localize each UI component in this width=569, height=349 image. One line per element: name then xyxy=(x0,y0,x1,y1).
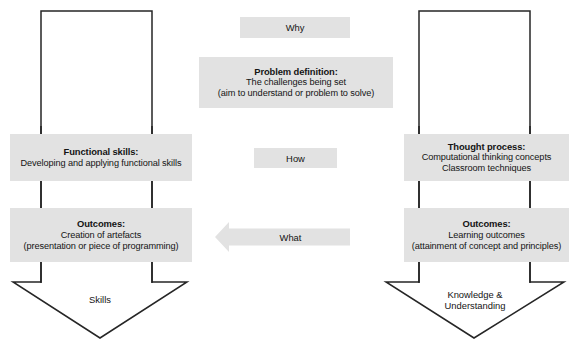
functional-skills-title: Functional skills: xyxy=(64,146,139,157)
thought-process-line-1: Computational thinking concepts xyxy=(422,152,552,163)
left-outcomes-line-2: (presentation or piece of programming) xyxy=(23,241,178,252)
left-outcomes-title: Outcomes: xyxy=(77,218,125,229)
why-label-box: Why xyxy=(240,17,350,38)
why-label-text: Why xyxy=(286,22,305,33)
what-label-text: What xyxy=(264,232,302,243)
problem-definition-line-2: (aim to understand or problem to solve) xyxy=(218,88,374,99)
thought-process-line-2: Classroom techniques xyxy=(442,163,531,174)
left-outcomes-line-1: Creation of artefacts xyxy=(61,230,142,241)
right-arrow-label-line-1: Knowledge & xyxy=(429,289,521,300)
right-outcomes-box: Outcomes: Learning outcomes (attainment … xyxy=(404,208,569,262)
problem-definition-line-1: The challenges being set xyxy=(246,77,346,88)
left-arrow-label: Skills xyxy=(60,294,140,305)
right-outcomes-title: Outcomes: xyxy=(462,218,510,229)
left-outcomes-box: Outcomes: Creation of artefacts (present… xyxy=(10,208,192,262)
right-outcomes-line-2: (attainment of concept and principles) xyxy=(412,241,561,252)
diagram-canvas: Why Problem definition: The challenges b… xyxy=(0,0,569,349)
problem-definition-title: Problem definition: xyxy=(254,66,338,77)
thought-process-box: Thought process: Computational thinking … xyxy=(404,134,569,181)
functional-skills-line-1: Developing and applying functional skill… xyxy=(21,158,182,169)
right-outcomes-line-1: Learning outcomes xyxy=(448,230,524,241)
right-arrow-label-line-2: Understanding xyxy=(429,300,521,311)
right-arrow-label: Knowledge & Understanding xyxy=(429,289,521,312)
left-arrow-label-text: Skills xyxy=(89,294,111,305)
functional-skills-box: Functional skills: Developing and applyi… xyxy=(10,134,192,181)
how-label-box: How xyxy=(254,148,337,168)
what-left-pointing-arrow: What xyxy=(215,222,350,252)
thought-process-title: Thought process: xyxy=(448,141,526,152)
problem-definition-box: Problem definition: The challenges being… xyxy=(199,57,393,108)
how-label-text: How xyxy=(286,153,305,164)
